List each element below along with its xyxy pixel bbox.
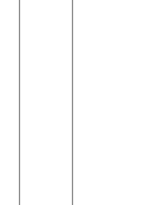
column-divider-right: [72, 0, 73, 205]
column-divider-left: [19, 0, 20, 205]
canvas: [0, 0, 146, 205]
